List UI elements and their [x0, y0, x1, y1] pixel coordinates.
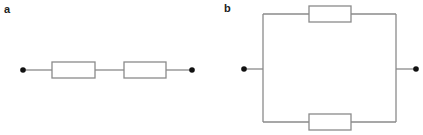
resistor-a-2: [124, 62, 166, 78]
terminal-a-left: [20, 67, 26, 73]
resistor-a-1: [52, 62, 95, 78]
terminal-b-right: [413, 66, 419, 72]
series-circuit: [23, 62, 192, 78]
parallel-circuit: [244, 6, 416, 130]
terminal-a-right: [189, 67, 195, 73]
terminal-b-left: [241, 66, 247, 72]
resistor-b-bottom: [309, 114, 351, 130]
circuit-diagrams: [0, 0, 423, 135]
resistor-b-top: [309, 6, 351, 22]
